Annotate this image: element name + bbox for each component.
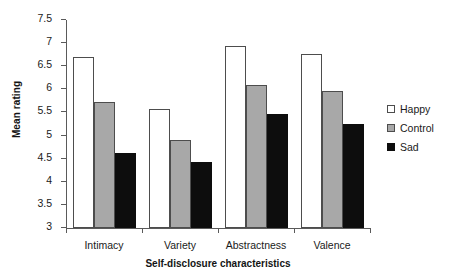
bar-sad-valence	[343, 124, 364, 228]
x-axis-tick	[370, 228, 371, 233]
y-axis-tick: 4	[61, 181, 66, 182]
bar-sad-abstractness	[267, 114, 288, 228]
bar-group: Valence	[301, 20, 364, 228]
legend-item-sad[interactable]: Sad	[387, 138, 434, 155]
y-axis-tick-label: 4	[46, 174, 52, 187]
x-axis-title: Self-disclosure characteristics	[66, 258, 370, 269]
y-axis-tick-label: 3.5	[37, 197, 52, 210]
bar-happy-valence	[301, 54, 322, 228]
legend-swatch-icon	[387, 105, 395, 113]
bar-control-intimacy	[94, 102, 115, 228]
bar-group: Variety	[149, 20, 212, 228]
legend-label: Control	[400, 122, 434, 134]
y-axis-tick-label: 5.5	[37, 104, 52, 117]
legend-item-happy[interactable]: Happy	[387, 100, 434, 117]
plot-area: 7.576.565.554.543.53 IntimacyVarietyAbst…	[66, 20, 370, 228]
y-axis-tick-label: 5	[46, 128, 52, 141]
x-axis-tick	[142, 228, 143, 233]
bar-control-abstractness	[246, 85, 267, 228]
legend-label: Sad	[400, 141, 419, 153]
bar-happy-intimacy	[73, 57, 94, 228]
y-axis-line	[66, 20, 67, 229]
y-axis-tick: 3.5	[61, 204, 66, 205]
bar-happy-variety	[149, 109, 170, 228]
bar-group: Abstractness	[225, 20, 288, 228]
y-axis-tick: 5.5	[61, 111, 66, 112]
bar-chart-figure: Mean rating 7.576.565.554.543.53 Intimac…	[0, 0, 454, 280]
legend-swatch-icon	[387, 124, 395, 132]
y-axis-tick: 4.5	[61, 158, 66, 159]
y-axis-tick-label: 7	[46, 35, 52, 48]
x-axis-tick	[294, 228, 295, 233]
x-axis-tick	[66, 228, 67, 233]
y-axis-title: Mean rating	[11, 50, 22, 170]
x-axis-tick	[218, 228, 219, 233]
y-axis-tick: 7	[61, 42, 66, 43]
y-axis-tick-label: 3	[46, 220, 52, 233]
y-axis-tick: 6.5	[61, 65, 66, 66]
bar-control-variety	[170, 140, 191, 228]
y-axis-tick-label: 4.5	[37, 151, 52, 164]
y-axis-tick-label: 6.5	[37, 58, 52, 71]
legend-label: Happy	[400, 103, 430, 115]
y-axis-tick: 7.5	[61, 19, 66, 20]
bar-group: Intimacy	[73, 20, 136, 228]
y-axis-tick: 6	[61, 88, 66, 89]
bar-sad-variety	[191, 162, 212, 228]
bar-happy-abstractness	[225, 46, 246, 228]
y-axis-tick-label: 7.5	[37, 12, 52, 25]
y-axis-tick: 5	[61, 135, 66, 136]
legend: HappyControlSad	[387, 100, 434, 157]
legend-swatch-icon	[387, 143, 395, 151]
bar-control-valence	[322, 91, 343, 228]
x-axis-category-label: Valence	[277, 239, 387, 251]
y-axis-tick-label: 6	[46, 81, 52, 94]
legend-item-control[interactable]: Control	[387, 119, 434, 136]
bar-sad-intimacy	[115, 153, 136, 228]
